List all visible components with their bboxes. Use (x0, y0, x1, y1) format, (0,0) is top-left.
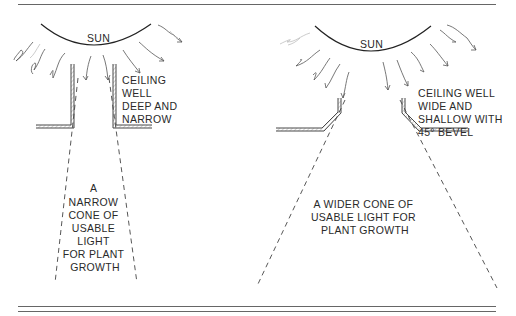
skylight-diagram: SUN (0, 0, 516, 316)
right-panel: SUN (258, 25, 506, 288)
well-label-right: CEILING WELL WIDE AND SHALLOW WITH 45° B… (418, 87, 506, 138)
cone-label-left: A NARROW CONE OF USABLE LIGHT FOR PLANT … (63, 182, 128, 273)
sun-label-right: SUN (360, 38, 383, 50)
cone-label-right: A WIDER CONE OF USABLE LIGHT FOR PLANT G… (311, 198, 419, 236)
well-label-left: CEILING WELL DEEP AND NARROW (122, 74, 181, 125)
sun-label-left: SUN (87, 32, 110, 44)
left-panel: SUN (14, 24, 182, 283)
